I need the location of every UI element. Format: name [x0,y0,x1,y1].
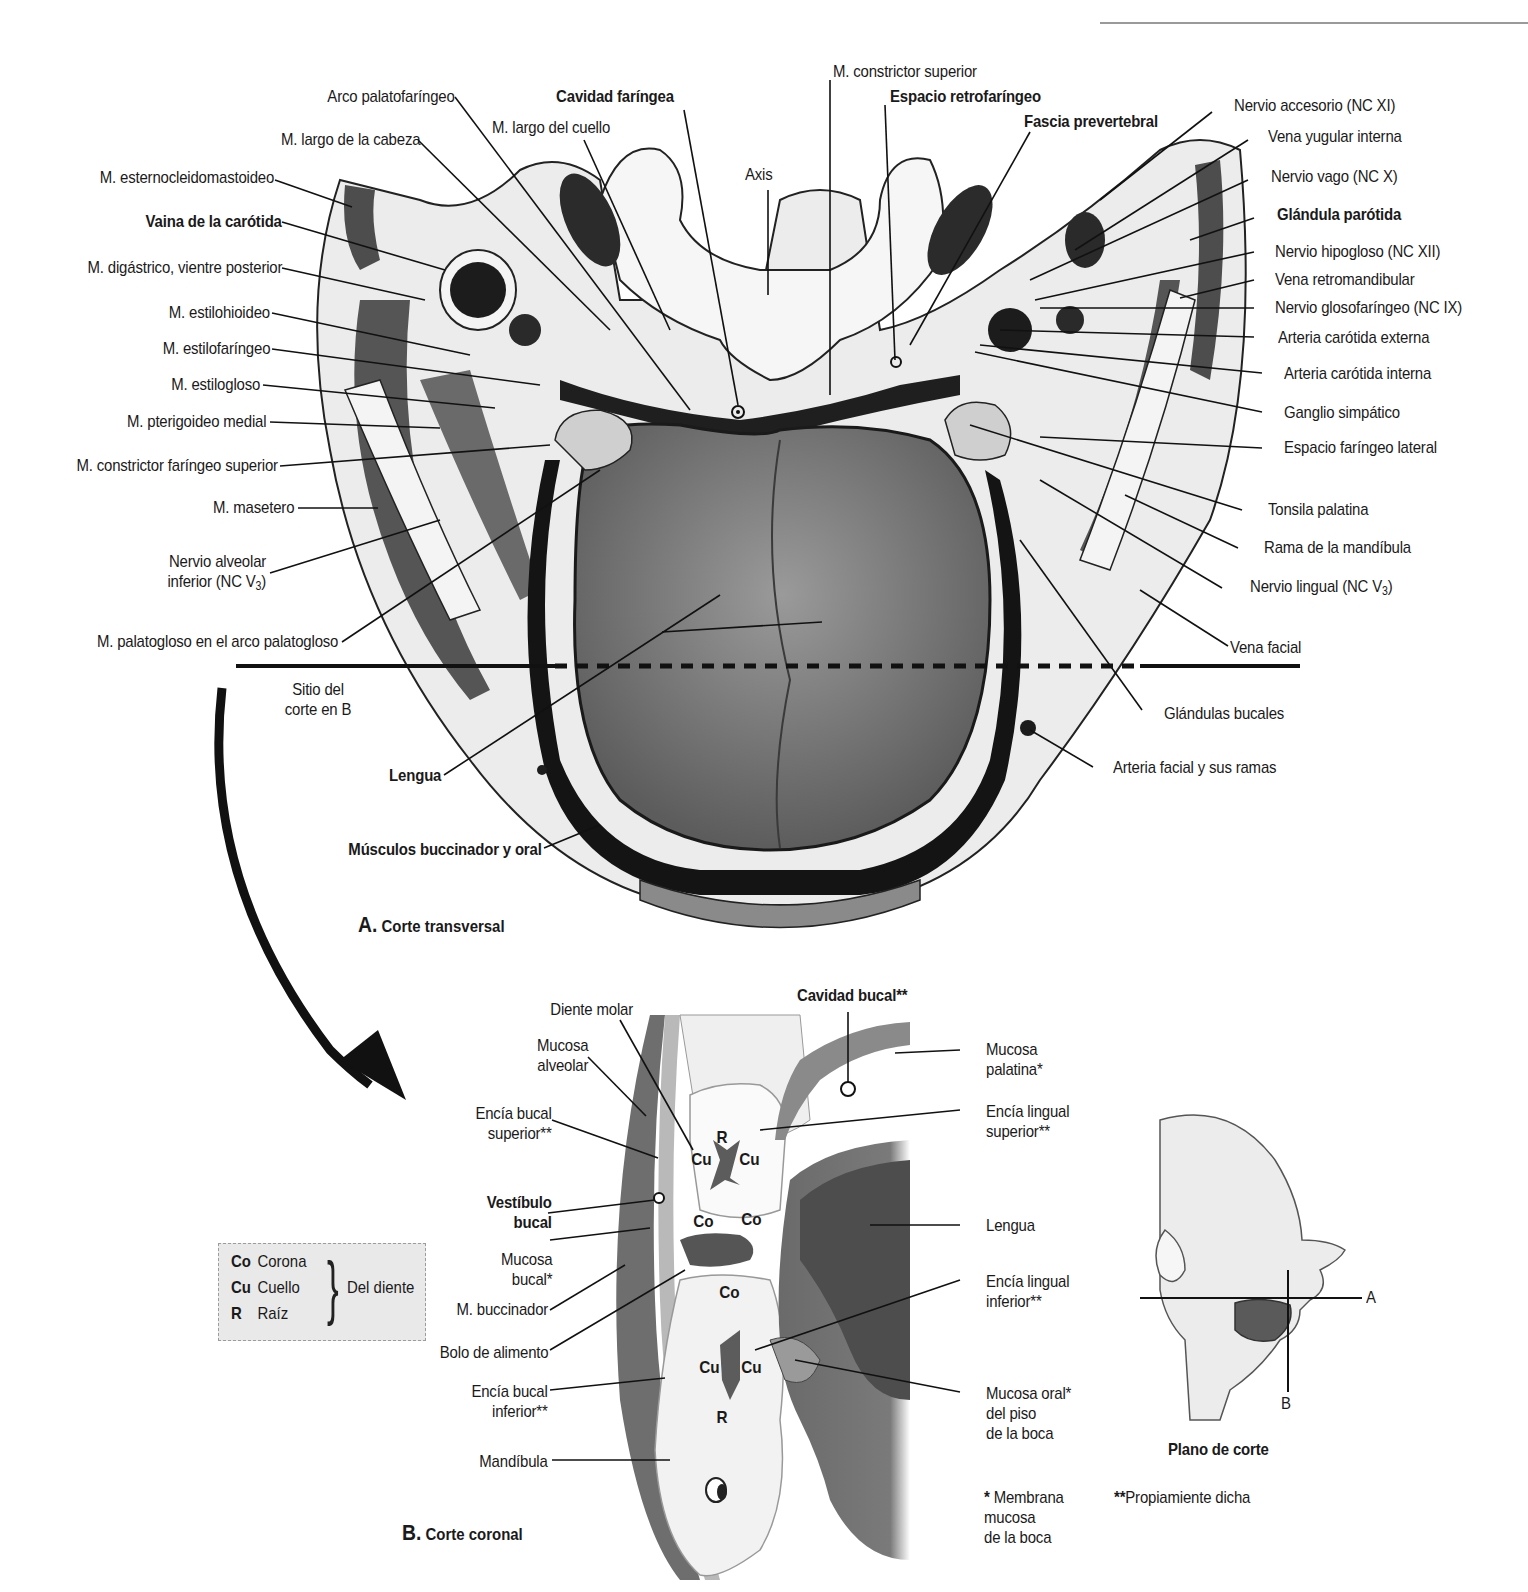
label-mucosa-bucal: Mucosa bucal* [501,1250,552,1290]
label-bolo-alimento: Bolo de alimento [439,1343,548,1363]
label-mandibula: Mandíbula [480,1452,548,1472]
tooth-mark-upper-r: R [717,1128,728,1148]
label-m-palatogloso: M. palatogloso en el arco palatogloso [97,632,338,652]
legend-row-raiz: RRaíz [231,1304,288,1324]
label-nervio-alveolar-inferior: Nervio alveolar inferior (NC V3) [167,552,266,596]
label-arteria-facial: Arteria facial y sus ramas [1113,758,1276,778]
label-encia-lingual-inferior: Encía lingual inferior** [986,1272,1069,1312]
cut-arrow [219,688,406,1100]
brace-icon: } [327,1252,339,1322]
label-vestibulo-bucal: Vestíbulo bucal [487,1193,552,1233]
label-mucosa-oral-piso: Mucosa oral* del piso de la boca [986,1384,1071,1444]
label-rama-mandibula: Rama de la mandíbula [1264,538,1411,558]
caption-panel-b: B. Corte coronal [402,1520,523,1546]
label-glandulas-bucales: Glándulas bucales [1164,704,1284,724]
label-vena-yugular-interna: Vena yugular interna [1268,127,1402,147]
tooth-mark-upper-co-left: Co [693,1212,713,1232]
label-espacio-faringeo-lateral: Espacio faríngeo lateral [1284,438,1437,458]
label-musculos-buccinador-oral: Músculos buccinador y oral [349,840,542,860]
label-ganglio-simpatico: Ganglio simpático [1284,403,1400,423]
label-diente-molar: Diente molar [550,1000,633,1020]
head-profile-drawing [1156,1115,1345,1420]
caption-panel-a: A. Corte transversal [358,912,505,938]
label-m-constrictor-superior: M. constrictor superior [833,62,977,82]
tooth-mark-lower-co: Co [719,1283,739,1303]
label-arco-palatofaringeo: Arco palatofaríngeo [328,87,455,107]
label-plano-de-corte: Plano de corte [1168,1440,1269,1460]
label-arteria-carotida-interna: Arteria carótida interna [1284,364,1431,384]
label-m-estilohioideo: M. estilohioideo [169,303,270,323]
label-sitio-corte-b: Sitio del corte en B [265,680,371,720]
tooth-mark-lower-cu-right: Cu [741,1358,761,1378]
label-nervio-hipogloso: Nervio hipogloso (NC XII) [1275,242,1440,262]
label-tonsila-palatina: Tonsila palatina [1268,500,1368,520]
anatomy-illustration [0,0,1528,1592]
legend-row-corona: CoCorona [231,1252,306,1272]
tooth-mark-lower-r: R [717,1408,728,1428]
footnote-double-asterisk: **Propiamiente dicha [1114,1488,1250,1508]
label-espacio-retrofaringeo: Espacio retrofaríngeo [890,87,1041,107]
label-vaina-carotida: Vaina de la carótida [146,212,282,232]
tooth-mark-lower-cu-left: Cu [699,1358,719,1378]
tooth-mark-upper-cu-right: Cu [739,1150,759,1170]
label-arteria-carotida-externa: Arteria carótida externa [1278,328,1429,348]
footnote-single-asterisk: * Membrana mucosa de la boca [984,1488,1064,1548]
label-m-constrictor-faringeo-superior: M. constrictor faríngeo superior [77,456,278,476]
label-plane-b: B [1281,1394,1291,1414]
label-cavidad-bucal: Cavidad bucal** [797,986,907,1006]
coronal-section-drawing [616,1015,910,1580]
label-nervio-glosofaringeo: Nervio glosofaríngeo (NC IX) [1275,298,1462,318]
label-lengua-b: Lengua [986,1216,1035,1236]
label-m-largo-cuello: M. largo del cuello [492,118,610,138]
label-axis: Axis [745,165,773,185]
label-fascia-prevertebral: Fascia prevertebral [1024,112,1158,132]
label-nervio-accesorio: Nervio accesorio (NC XI) [1234,96,1395,116]
label-m-buccinador: M. buccinador [456,1300,548,1320]
label-nervio-lingual: Nervio lingual (NC V3) [1250,577,1393,601]
label-m-estilofaringeo: M. estilofaríngeo [162,339,270,359]
label-encia-lingual-superior: Encía lingual superior** [986,1102,1069,1142]
tooth-mark-upper-cu-left: Cu [691,1150,711,1170]
legend-group-label: Del diente [347,1278,414,1298]
label-mucosa-alveolar: Mucosa alveolar [537,1036,588,1076]
label-encia-bucal-superior: Encía bucal superior** [476,1104,552,1144]
label-m-digastrico: M. digástrico, vientre posterior [87,258,282,278]
label-plane-a: A [1366,1288,1376,1308]
label-m-esternocleidomastoideo: M. esternocleidomastoideo [100,168,274,188]
label-encia-bucal-inferior: Encía bucal inferior** [472,1382,548,1422]
tooth-parts-legend: CoCorona CuCuello RRaíz } Del diente [218,1243,426,1341]
label-vena-facial: Vena facial [1230,638,1301,658]
label-lengua-a: Lengua [389,766,441,786]
label-m-masetero: M. masetero [213,498,294,518]
label-m-estilogloso: M. estilogloso [171,375,260,395]
label-m-pterigoideo-medial: M. pterigoideo medial [127,412,266,432]
label-vena-retromandibular: Vena retromandibular [1275,270,1415,290]
tooth-mark-upper-co-right: Co [741,1210,761,1230]
label-mucosa-palatina: Mucosa palatina* [986,1040,1043,1080]
label-cavidad-faringea: Cavidad faríngea [549,87,681,107]
label-glandula-parotida: Glándula parótida [1277,205,1401,225]
label-m-largo-cabeza: M. largo de la cabeza [281,130,420,150]
label-nervio-vago: Nervio vago (NC X) [1271,167,1398,187]
legend-row-cuello: CuCuello [231,1278,300,1298]
